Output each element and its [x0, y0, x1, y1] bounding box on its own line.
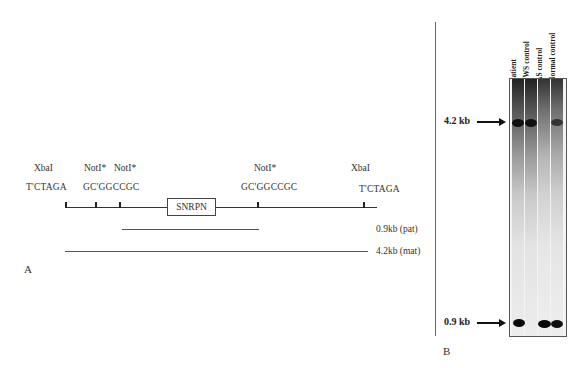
snrpn-gene-box: SNRPN	[167, 198, 216, 216]
site-tick-noti-1	[95, 202, 97, 208]
band-4-2kb-patient	[512, 119, 524, 127]
fragment-line-mat	[65, 251, 368, 252]
lane-pws-control	[525, 79, 537, 336]
arrow-right-icon	[477, 322, 500, 324]
band-0-9kb-normal-control	[551, 320, 563, 328]
site-seq-noti-1: GC'GGCCGC	[83, 182, 139, 192]
band-4-2kb-normal-control	[551, 119, 563, 126]
lane-label-pws-control: PWS control	[522, 41, 531, 82]
lane-label-normal-control: Normal control	[548, 33, 557, 82]
panel-b-label: B	[443, 345, 450, 357]
site-tick-xbai-left	[65, 202, 67, 208]
band-4-2kb-pws-control	[525, 119, 537, 127]
fragment-label-mat: 4.2kb (mat)	[376, 246, 420, 256]
site-tick-xbai-right	[363, 202, 365, 208]
site-seq-xbai-right: T'CTAGA	[359, 184, 400, 194]
lane-patient	[512, 79, 524, 336]
site-tick-noti-3	[257, 202, 259, 208]
site-seq-noti-3: GC'GGCCGC	[241, 182, 297, 192]
lane-label-as-control: AS control	[535, 48, 544, 82]
lane-normal-control	[551, 79, 563, 336]
site-seq-xbai-left: T'CTAGA	[26, 182, 67, 192]
panel-a-label: A	[24, 263, 32, 275]
site-tick-noti-2	[119, 202, 121, 208]
marker-label-4-2kb: 4.2 kb	[444, 115, 470, 126]
map-baseline-right	[215, 207, 377, 208]
site-label-xbai-left: XbaI	[34, 163, 53, 173]
marker-label-0-9kb: 0.9 kb	[444, 316, 470, 327]
map-baseline-left	[65, 207, 167, 208]
band-0-9kb-patient	[513, 319, 525, 327]
site-label-noti-3: NotI*	[254, 163, 276, 173]
panel-divider	[435, 22, 436, 336]
site-label-noti-1: NotI*	[84, 163, 106, 173]
gel-image	[509, 78, 567, 337]
fragment-label-pat: 0.9kb (pat)	[376, 224, 418, 234]
site-label-noti-2: NotI*	[114, 163, 136, 173]
arrow-right-icon	[477, 121, 500, 123]
site-label-xbai-right: XbaI	[351, 163, 370, 173]
lane-as-control	[538, 79, 550, 336]
band-0-9kb-as-control	[538, 320, 551, 328]
fragment-line-pat	[122, 229, 259, 230]
